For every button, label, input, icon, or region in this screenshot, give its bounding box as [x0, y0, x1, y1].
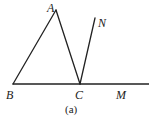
- ray-cn: [80, 18, 95, 84]
- label-point-n: N: [97, 16, 107, 30]
- segment-ac: [56, 10, 80, 84]
- label-point-m: M: [115, 88, 127, 102]
- label-point-b: B: [6, 88, 14, 102]
- label-point-c: C: [75, 88, 84, 102]
- label-point-a: A: [46, 1, 55, 15]
- geometry-diagram: A N B C M (a): [0, 0, 149, 120]
- segment-ba: [13, 10, 56, 84]
- figure-caption: (a): [65, 103, 78, 116]
